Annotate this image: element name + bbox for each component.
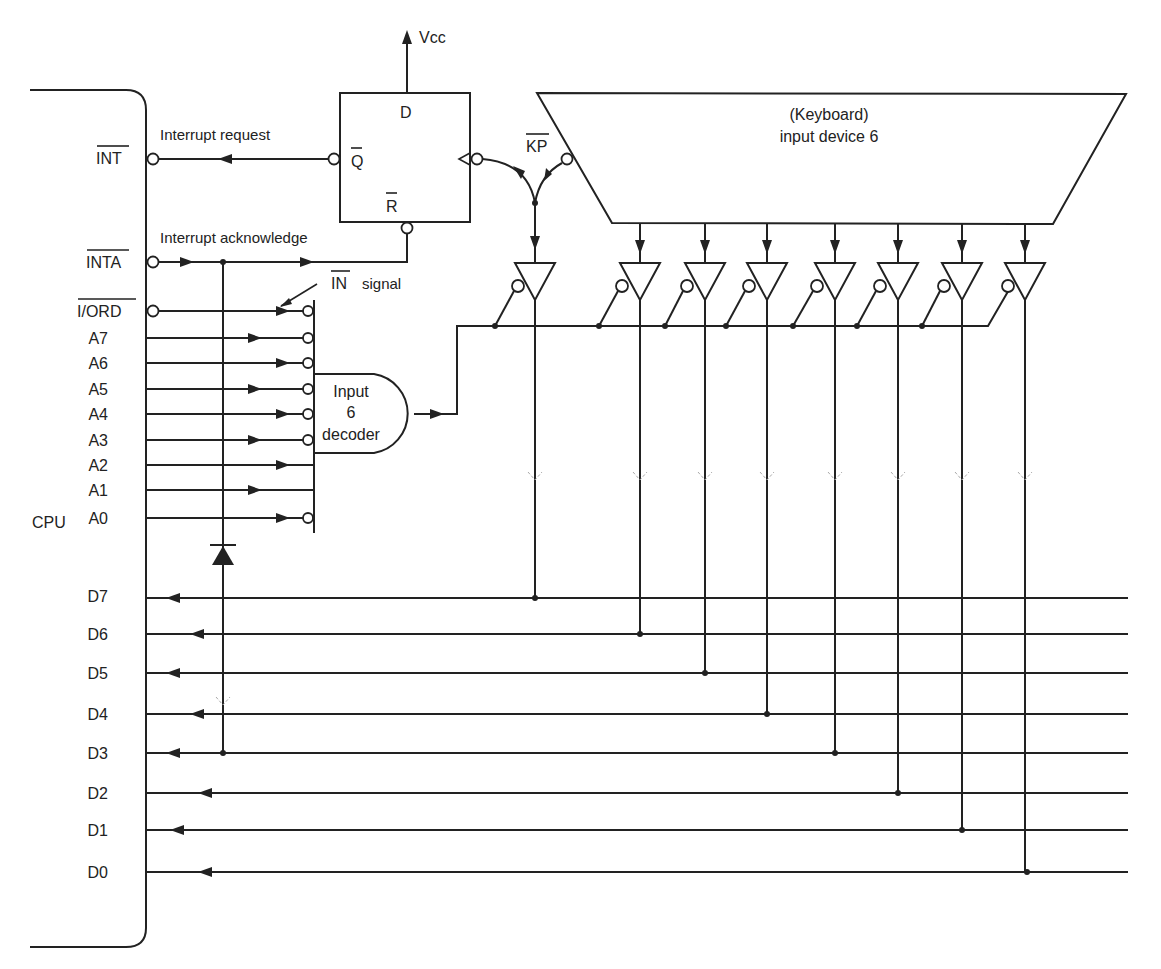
a7-label: A7 [88, 330, 108, 347]
cpu-label: CPU [32, 514, 66, 531]
tristate-buffer-d1 [919, 223, 982, 830]
kp-label: KP [526, 138, 547, 155]
interrupt-acknowledge-label: Interrupt acknowledge [160, 229, 308, 246]
a4-bubble [303, 409, 313, 419]
a3-label: A3 [88, 432, 108, 449]
data-line-d5: D5 [88, 665, 1128, 682]
d6-label: D6 [88, 626, 109, 643]
iord-pin-bubble [148, 306, 159, 317]
a3-arrow [248, 435, 262, 445]
decoder-label-2: 6 [347, 404, 356, 421]
a1-label: A1 [88, 482, 108, 499]
vcc-label: Vcc [419, 29, 446, 46]
flipflop-rbar-label: R [386, 198, 398, 215]
interrupt-request-arrow [218, 154, 232, 164]
tristate-buffer-d0 [1002, 223, 1045, 872]
a7-bubble [303, 333, 313, 343]
tristate-buffer-d5 [662, 223, 725, 673]
data-line-d6: D6 [88, 626, 1128, 643]
data-line-d3: D3 [88, 745, 1128, 762]
keyboard-sublabel: input device 6 [780, 128, 879, 145]
data-line-d4: D4 [88, 706, 1128, 723]
a6-arrow [276, 358, 290, 368]
a6-label: A6 [88, 355, 108, 372]
a0-bubble [303, 513, 313, 523]
a2-label: A2 [88, 457, 108, 474]
a0-arrow [276, 513, 290, 523]
a4-arrow [276, 409, 290, 419]
a5-bubble [303, 384, 313, 394]
clock-input-triangle [459, 153, 470, 165]
a6-bubble [303, 358, 313, 368]
data-line-d0: D0 [88, 864, 1128, 881]
keyboard-label: (Keyboard) [789, 106, 868, 123]
int-pin-bubble [148, 154, 159, 165]
data-line-d2: D2 [88, 785, 1128, 802]
in-signal-pointer-arrow [280, 298, 292, 307]
iord-decoder-bubble [303, 306, 313, 316]
a7-arrow [248, 333, 262, 343]
in-signal-name: IN [331, 275, 347, 292]
flipflop-d-label: D [400, 104, 412, 121]
in-signal-suffix: signal [362, 275, 401, 292]
diode-icon [212, 546, 234, 565]
kp-output-wire [535, 163, 562, 203]
a4-label: A4 [88, 406, 108, 423]
d3-label: D3 [88, 745, 109, 762]
flipflop-qbar-label: Q [351, 153, 363, 170]
data-line-d1: D1 [88, 822, 1128, 839]
decoder-label-3: decoder [322, 426, 380, 443]
inta-arrow-1 [180, 257, 194, 267]
qbar-bubble [329, 154, 340, 165]
a0-label: A0 [88, 510, 108, 527]
interrupt-keyboard-schematic: CPU INT Interrupt request Vcc D Q R KP (… [0, 0, 1161, 969]
kp-bubble [562, 154, 573, 165]
tristate-buffer-d4 [723, 223, 787, 714]
d0-label: D0 [88, 864, 109, 881]
inta-pin-bubble [148, 257, 159, 268]
d7-label: D7 [88, 588, 109, 605]
tristate-buffer-d7 [492, 263, 555, 598]
decoder-label-1: Input [333, 383, 369, 400]
iord-pin-label: I/ORD [77, 303, 121, 320]
vcc-arrow-icon [402, 30, 412, 44]
interrupt-request-label: Interrupt request [160, 126, 271, 143]
a2-arrow [276, 460, 290, 470]
clock-bubble [472, 154, 483, 165]
a5-label: A5 [88, 381, 108, 398]
a3-bubble [303, 435, 313, 445]
d1-label: D1 [88, 822, 109, 839]
a5-arrow [248, 384, 262, 394]
a1-arrow [248, 485, 262, 495]
inta-pin-label: INTA [86, 254, 122, 271]
kp-to-clock-wire [483, 159, 536, 203]
int-pin-label: INT [96, 150, 122, 167]
tristate-buffer-d2 [854, 223, 918, 793]
d4-label: D4 [88, 706, 109, 723]
tristate-buffer-d6 [596, 223, 660, 634]
d5-label: D5 [88, 665, 109, 682]
data-line-d7: D7 [88, 588, 1128, 605]
iord-arrow [276, 306, 290, 316]
rbar-bubble [402, 223, 413, 234]
decoder-enable-bus [414, 288, 1010, 414]
inta-arrow-2 [300, 257, 314, 267]
kp-down-arrow [530, 236, 540, 250]
d2-label: D2 [88, 785, 109, 802]
decoder-output-arrow [430, 409, 444, 419]
